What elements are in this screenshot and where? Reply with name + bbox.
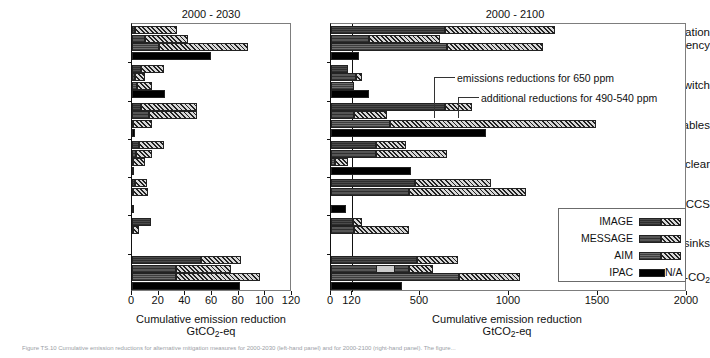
bar-segment-additional: [445, 26, 555, 34]
legend-swatch-image-additional: [661, 218, 681, 226]
legend-label-image: IMAGE: [559, 215, 633, 228]
bar-segment-base: [331, 111, 354, 119]
bar-segment-additional: [409, 265, 433, 273]
legend-row-image[interactable]: IMAGE: [559, 215, 685, 228]
bar-segment-additional: [133, 158, 145, 166]
legend-row-aim[interactable]: AIM: [559, 249, 685, 262]
bar-right-fossil-fuel-switch-aim: [331, 82, 354, 90]
annotation-490-540ppm: additional reductions for 490-540 ppm: [481, 92, 657, 104]
bar-segment-base: [331, 43, 447, 51]
bar-segment-base: [132, 282, 240, 290]
bar-right-fossil-fuel-switch-ipac: [331, 90, 369, 98]
bar-segment-additional: [353, 218, 362, 226]
y-axis-tick: [128, 254, 132, 255]
bar-left-nuclear-aim: [132, 158, 145, 166]
y-axis-tick: [128, 215, 132, 216]
x-axis-tick-label: 500: [399, 294, 439, 306]
legend-label-aim: AIM: [559, 249, 633, 262]
legend-label-ipac: IPAC: [559, 266, 633, 279]
right-axis-title: Cumulative emission reduction GtCO2-eq: [412, 313, 602, 337]
leader-line-490ppm-horizontal: [458, 97, 479, 98]
bar-segment-base: [331, 273, 459, 281]
left-panel-title: 2000 - 2030: [131, 8, 291, 20]
y-axis-tick: [128, 177, 132, 178]
bar-segment-additional: [136, 150, 152, 158]
cat-sub: 2: [705, 275, 710, 285]
bar-segment-additional: [176, 273, 260, 281]
bar-segment-additional: [145, 35, 188, 43]
bar-segment-base: [331, 82, 354, 90]
bar-left-renewables-message: [132, 111, 197, 119]
left-axis-title: Cumulative emission reduction GtCO2-eq: [116, 313, 306, 337]
bar-segment-additional: [356, 73, 362, 81]
bar-right-non-co2-message: [331, 265, 433, 273]
bar-left-energy-conservation-efficiency-aim: [132, 43, 248, 51]
bar-segment-additional: [135, 73, 146, 81]
legend-swatch-image-base: [639, 218, 661, 226]
bar-segment-base: [132, 167, 134, 175]
bar-left-nuclear-ipac: [132, 167, 133, 175]
bar-left-non-co2-aim: [132, 273, 260, 281]
bar-left-non-co2-image: [132, 256, 241, 264]
bar-segment-additional: [459, 273, 520, 281]
bar-segment-base: [132, 52, 211, 60]
legend-swatch-aim-base: [639, 252, 661, 260]
bar-segment-additional: [139, 141, 164, 149]
bar-segment-base: [331, 103, 445, 111]
bar-right-nuclear-image: [331, 141, 406, 149]
bar-left-fossil-fuel-switch-message: [132, 73, 145, 81]
bar-segment-additional: [135, 26, 178, 34]
bar-right-non-co2-ipac: [331, 282, 402, 290]
bar-right-forest-sinks-image: [331, 218, 362, 226]
figure-root: 2000 - 2030 2000 - 2100 Energy conservat…: [0, 0, 710, 358]
legend-swatch-message-base: [639, 235, 661, 243]
bar-segment-additional: [417, 256, 458, 264]
bar-segment-additional: [376, 150, 447, 158]
bar-segment-base: [132, 141, 139, 149]
legend-swatch-message-additional: [661, 235, 681, 243]
bar-right-energy-conservation-efficiency-aim: [331, 43, 543, 51]
x-axis-tick-label: 2000: [666, 294, 706, 306]
bar-segment-base: [132, 103, 141, 111]
bar-segment-base: [132, 43, 159, 51]
bar-segment-additional: [133, 120, 152, 128]
bar-right-non-co2-aim: [331, 273, 520, 281]
bar-segment-additional: [135, 179, 147, 187]
right-axis-title-line2: GtCO: [483, 325, 511, 337]
bar-left-non-co2-message: [132, 265, 231, 273]
leader-line-650ppm-horizontal: [434, 77, 455, 78]
bar-left-forest-sinks-message: [132, 226, 139, 234]
left-axis-title-sub: 2: [215, 329, 220, 339]
y-axis-tick: [128, 62, 132, 63]
bar-segment-additional: [133, 226, 138, 234]
bar-segment-base: [132, 205, 134, 213]
bar-segment-base: [331, 120, 390, 128]
bar-right-renewables-aim: [331, 120, 596, 128]
y-axis-tick: [128, 101, 132, 102]
bar-segment-light: [376, 265, 395, 273]
bar-right-fossil-fuel-switch-image: [331, 65, 348, 73]
bar-segment-base: [132, 273, 176, 281]
bar-right-nuclear-aim: [331, 158, 348, 166]
left-plot-area: [131, 23, 291, 291]
bar-right-ccs-ipac: [331, 205, 346, 213]
legend-swatch-ipac-base: [639, 269, 665, 277]
bar-segment-base: [331, 167, 411, 175]
legend-row-ipac[interactable]: IPAC N/A: [559, 266, 685, 279]
bar-right-ccs-image: [331, 179, 491, 187]
y-axis-tick: [327, 101, 331, 102]
bar-left-forest-sinks-image: [132, 218, 151, 226]
annotation-650ppm: emissions reductions for 650 ppm: [457, 72, 614, 84]
legend-row-message[interactable]: MESSAGE: [559, 232, 685, 245]
figure-caption: Figure TS.10 Cumulative emission reducti…: [22, 344, 692, 352]
bar-segment-base: [331, 282, 402, 290]
bar-segment-base: [132, 111, 149, 119]
bar-right-energy-conservation-efficiency-message: [331, 35, 440, 43]
bar-left-ccs-message: [132, 188, 148, 196]
bar-left-renewables-image: [132, 103, 197, 111]
right-panel-title: 2000 - 2100: [420, 8, 610, 20]
bar-left-ccs-image: [132, 179, 147, 187]
bar-left-energy-conservation-efficiency-image: [132, 26, 177, 34]
legend-box: IMAGE MESSAGE AIM IPAC N/A: [558, 208, 686, 282]
x-axis-tick-label: 1000: [488, 294, 528, 306]
